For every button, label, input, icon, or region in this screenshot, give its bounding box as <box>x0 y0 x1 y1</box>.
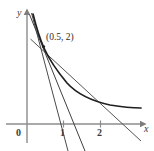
x-tick-label-1: 1 <box>60 128 65 138</box>
graph-figure: y x 0 1 2 (0.5, 2) <box>0 0 154 151</box>
y-axis-label: y <box>17 8 21 18</box>
x-axis-label: x <box>144 124 148 134</box>
origin-label: 0 <box>16 128 21 138</box>
x-tick-label-2: 2 <box>97 128 102 138</box>
marked-point <box>42 45 45 48</box>
point-coordinate-label: (0.5, 2) <box>46 33 74 43</box>
function-curve <box>33 14 141 108</box>
plot-canvas <box>0 0 154 151</box>
